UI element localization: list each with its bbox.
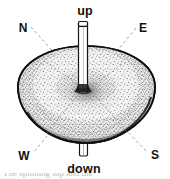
label-north: N <box>19 21 28 35</box>
spinning-top-figure: up down N E W S The spinning top and the <box>0 0 170 179</box>
label-east: E <box>139 21 147 35</box>
spinning-top-illustration: up down N E W S <box>0 0 170 179</box>
label-south: S <box>151 148 159 162</box>
cut-off-caption: The spinning top and the <box>0 173 170 179</box>
axis-rod-upper <box>79 22 88 94</box>
label-up: up <box>77 4 93 18</box>
cut-off-caption-text: The spinning top and the <box>3 173 170 178</box>
label-west: W <box>18 149 30 163</box>
